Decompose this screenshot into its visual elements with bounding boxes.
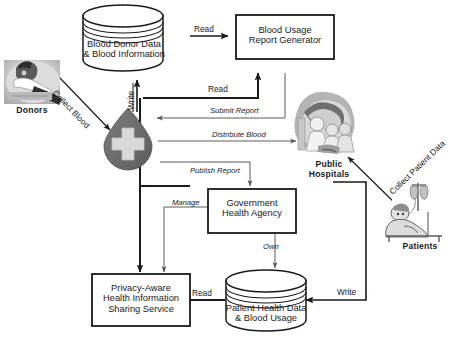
node-government-agency[interactable] xyxy=(208,189,296,233)
edge-write-patientdb xyxy=(306,182,366,300)
photo-public-hospitals xyxy=(294,92,354,154)
node-sharing-service[interactable] xyxy=(92,274,190,326)
node-blood-drop-icon[interactable] xyxy=(104,108,152,170)
edge-label-manage: Manage xyxy=(172,198,199,207)
edge-label-submit-report: Submit Report xyxy=(210,106,259,115)
node-blood-donor-db[interactable] xyxy=(83,5,163,71)
edge-label-own: Own xyxy=(263,242,279,251)
edge-label-distribute-blood: Distribute Blood xyxy=(212,130,266,139)
edge-label-read-donordb: Read xyxy=(194,24,214,34)
edge-label-read-patientdb: Read xyxy=(192,288,212,298)
node-report-generator[interactable] xyxy=(236,15,334,59)
edge-manage xyxy=(164,207,208,272)
diagram-canvas: Blood Donor Data & Blood Information Blo… xyxy=(0,0,455,344)
node-patient-db[interactable] xyxy=(226,270,306,331)
edge-label-write-patientdb: Write xyxy=(337,287,356,297)
edge-label-read-generator: Read xyxy=(208,84,228,94)
edge-read-generator xyxy=(143,73,258,98)
edge-label-publish-report: Publish Report xyxy=(190,166,240,175)
edge-label-write-donordb: Write xyxy=(126,91,136,110)
